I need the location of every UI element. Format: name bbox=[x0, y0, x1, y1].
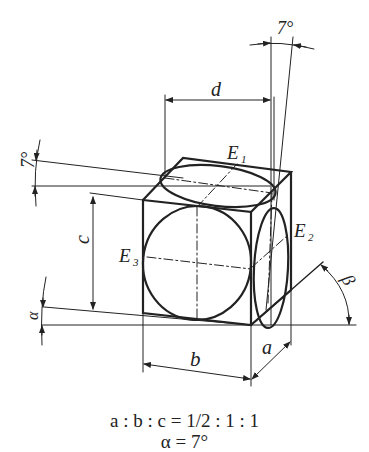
svg-text:E: E bbox=[118, 245, 131, 266]
svg-text:3: 3 bbox=[132, 256, 139, 268]
alpha-formula: α = 7° bbox=[0, 432, 369, 452]
label-angle-top: 7° bbox=[277, 18, 293, 38]
label-b: b bbox=[190, 347, 201, 371]
seven-deg-top-arrow-left bbox=[258, 43, 270, 44]
label-a: a bbox=[262, 336, 272, 358]
label-e3: E 3 bbox=[118, 245, 139, 268]
label-d: d bbox=[211, 78, 222, 100]
seven-deg-left-arc bbox=[35, 140, 40, 206]
seven-deg-upper-line bbox=[32, 160, 183, 178]
label-e2: E 2 bbox=[293, 220, 314, 243]
svg-text:E: E bbox=[226, 142, 239, 163]
beta-arrow-top bbox=[321, 265, 328, 271]
svg-text:2: 2 bbox=[308, 231, 314, 243]
e3-horizontal-centerline bbox=[147, 257, 251, 269]
label-beta: β bbox=[337, 270, 359, 289]
c-extension-top bbox=[90, 193, 143, 200]
ratio-formula: a : b : c = 1/2 : 1 : 1 bbox=[0, 411, 369, 431]
label-c: c bbox=[71, 235, 93, 244]
svg-text:E: E bbox=[293, 220, 306, 241]
svg-text:1: 1 bbox=[241, 153, 247, 165]
label-e1: E 1 bbox=[226, 142, 247, 165]
label-alpha: α bbox=[24, 311, 41, 320]
seven-deg-top-arrow-right bbox=[294, 45, 306, 47]
beta-arc bbox=[322, 266, 349, 324]
label-angle-left: 7° bbox=[18, 152, 38, 168]
